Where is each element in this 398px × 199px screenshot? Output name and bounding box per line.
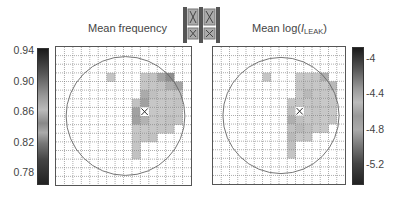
colorbar-leakage [352,47,364,185]
colorbar-frequency-tick: 0.90 [14,75,34,87]
heatmap-frequency [55,46,192,186]
colorbar-frequency-tick: 0.86 [14,105,34,117]
chart-title-leakage: Mean log(ILEAK) [252,22,327,36]
die-layout-icon [182,6,222,44]
colorbar-frequency-tick: 0.94 [14,44,34,56]
colorbar-leakage-tick: -4.4 [366,87,384,99]
colorbar-frequency-tick: 0.82 [14,136,34,148]
colorbar-leakage-tick: -4 [366,52,375,64]
colorbar-leakage-tick: -5.2 [366,158,384,170]
chart-title-frequency: Mean frequency [88,22,167,34]
colorbar-frequency-tick: 0.78 [14,166,34,178]
heatmap-leakage [212,46,346,185]
colorbar-leakage-tick: -4.8 [366,123,384,135]
colorbar-frequency [37,48,49,185]
